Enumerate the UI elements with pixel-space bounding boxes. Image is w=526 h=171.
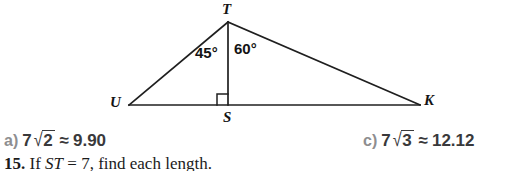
answer-choice-a[interactable]: a) 7 √ 2 ≈ 9.90 [4,130,106,149]
vertex-label-K: K [424,93,434,108]
angle-label-45: 45° [195,45,218,60]
answer-choice-c[interactable]: c) 7 √ 3 ≈ 12.12 [363,130,475,149]
vertex-label-S: S [223,110,231,125]
segment-TK [228,22,420,105]
problem-variable: ST [45,154,63,171]
radical-c: √ 3 [392,130,414,149]
answer-choice-c-coefficient: 7 [381,132,390,149]
problem-number: 15. [4,154,25,171]
answer-choice-a-tag: a) [4,133,18,149]
approx-symbol-a: ≈ [60,132,69,149]
answer-choice-c-tag: c) [363,133,377,149]
next-problem-line: 15. If ST = 7, find each length. [4,155,212,171]
radical-sign-icon: √ [392,130,401,149]
answer-choice-a-radicand: 2 [42,130,54,149]
radical-sign-icon: √ [33,130,42,149]
worksheet-page: T U S K 45° 60° a) 7 √ 2 ≈ 9.90 c) 7 √ 3… [0,0,526,171]
radical-a: √ 2 [33,130,55,149]
approx-symbol-c: ≈ [419,132,428,149]
segment-TU [129,22,228,105]
answer-choice-c-value: 12.12 [432,132,475,149]
vertex-label-T: T [222,2,231,17]
problem-text-after: = 7, find each length. [67,154,212,171]
answer-choice-c-radicand: 3 [401,130,413,149]
problem-text-before: If [30,154,41,171]
answer-choice-a-value: 9.90 [73,132,106,149]
angle-label-60: 60° [234,41,257,56]
vertex-label-U: U [110,95,121,110]
right-angle-mark-at-S [217,94,228,105]
answer-choice-a-coefficient: 7 [22,132,31,149]
